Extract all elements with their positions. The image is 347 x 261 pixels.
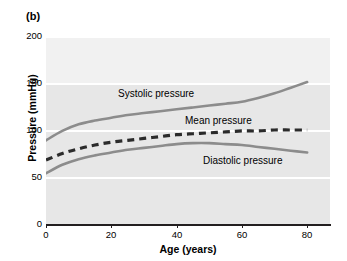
series-label-systolic: Systolic pressure [118,88,194,99]
y-axis-title: Pressure (mmHg) [26,38,38,198]
x-tick-mark-80 [307,224,308,228]
series-curves [46,36,330,224]
x-axis-title: Age (years) [46,243,330,255]
x-tick-40: 40 [162,229,192,240]
x-tick-0: 0 [31,229,61,240]
y-tick-0: 0 [4,219,42,229]
x-axis-line [46,224,331,226]
x-tick-mark-0 [46,224,47,228]
x-tick-mark-20 [111,224,112,228]
series-label-diastolic: Diastolic pressure [203,155,282,166]
series-label-mean: Mean pressure [185,115,252,126]
x-tick-60: 60 [227,229,257,240]
x-tick-80: 80 [292,229,322,240]
figure-panel-b: (b) 200 150 100 50 0 Pressure (mmHg) 0 2… [0,0,347,261]
plot-area [46,36,330,224]
x-tick-mark-40 [177,224,178,228]
x-tick-20: 20 [96,229,126,240]
x-tick-mark-60 [242,224,243,228]
